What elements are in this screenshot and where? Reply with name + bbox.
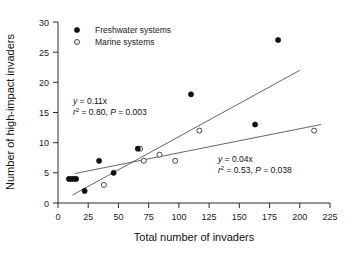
data-point-freshwater bbox=[276, 37, 281, 42]
x-tick-label: 200 bbox=[292, 212, 307, 222]
y-tick-label: 5 bbox=[44, 168, 49, 178]
data-point-marine bbox=[141, 158, 146, 163]
y-tick-label: 15 bbox=[39, 108, 49, 118]
y-tick-label: 25 bbox=[39, 48, 49, 58]
series-marine-systems bbox=[101, 128, 316, 187]
x-axis-title: Total number of invaders bbox=[134, 231, 255, 243]
data-point-freshwater bbox=[111, 170, 116, 175]
data-point-freshwater bbox=[188, 92, 193, 97]
data-point-marine bbox=[197, 128, 202, 133]
y-tick-label: 30 bbox=[39, 18, 49, 28]
scatter-plot-figure: 0 5 10 15 20 25 30 0 25 50 75 100 bbox=[0, 0, 351, 256]
y-axis-title: Number of high-impact invaders bbox=[4, 34, 16, 190]
x-tick-label: 175 bbox=[262, 212, 277, 222]
legend-marker-filled-circle-icon bbox=[74, 27, 79, 32]
legend-label-marine: Marine systems bbox=[95, 37, 155, 47]
svg-text:r2 = 0.53, P = 0.038: r2 = 0.53, P = 0.038 bbox=[218, 165, 292, 175]
svg-text:r2 = 0.80, P = 0.003: r2 = 0.80, P = 0.003 bbox=[73, 107, 147, 117]
freshwater-annotation: y = 0.11x r2 = 0.80, P = 0.003 bbox=[72, 96, 147, 117]
chart-legend: Freshwater systems Marine systems bbox=[74, 25, 171, 47]
data-point-freshwater bbox=[135, 146, 140, 151]
y-axis-ticks: 0 5 10 15 20 25 30 bbox=[39, 18, 58, 209]
legend-label-freshwater: Freshwater systems bbox=[95, 25, 171, 35]
svg-text:y = 0.04x: y = 0.04x bbox=[217, 154, 253, 164]
x-tick-label: 25 bbox=[83, 212, 93, 222]
y-tick-label: 20 bbox=[39, 78, 49, 88]
mar-p-rest: = 0.038 bbox=[261, 165, 292, 175]
data-point-freshwater bbox=[82, 188, 87, 193]
y-tick-label: 10 bbox=[39, 138, 49, 148]
data-point-marine bbox=[101, 182, 106, 187]
freshwater-fit-line bbox=[73, 70, 300, 195]
x-tick-label: 150 bbox=[232, 212, 247, 222]
data-point-freshwater bbox=[74, 176, 79, 181]
fw-p-rest: = 0.003 bbox=[116, 107, 147, 117]
x-tick-label: 50 bbox=[113, 212, 123, 222]
chart-svg: 0 5 10 15 20 25 30 0 25 50 75 100 bbox=[0, 0, 351, 256]
legend-marker-open-circle-icon bbox=[75, 40, 80, 45]
regression-lines bbox=[73, 70, 322, 195]
x-tick-label: 100 bbox=[171, 212, 186, 222]
data-point-marine bbox=[312, 128, 317, 133]
x-axis-ticks: 0 25 50 75 100 125 150 175 200 225 bbox=[55, 203, 337, 222]
mar-eq-rest: = 0.04x bbox=[222, 154, 253, 164]
y-tick-label: 0 bbox=[44, 199, 49, 209]
x-tick-label: 75 bbox=[144, 212, 154, 222]
x-tick-label: 225 bbox=[322, 212, 337, 222]
marine-annotation: y = 0.04x r2 = 0.53, P = 0.038 bbox=[217, 154, 292, 175]
data-point-marine bbox=[157, 152, 162, 157]
fw-r-rest: = 0.80, bbox=[79, 107, 110, 117]
data-point-marine bbox=[173, 158, 178, 163]
mar-r-rest: = 0.53, bbox=[224, 165, 255, 175]
data-point-freshwater bbox=[253, 122, 258, 127]
svg-text:y = 0.11x: y = 0.11x bbox=[72, 96, 108, 106]
data-point-freshwater bbox=[97, 158, 102, 163]
x-tick-label: 0 bbox=[55, 212, 60, 222]
fw-eq-rest: = 0.11x bbox=[77, 96, 108, 106]
x-tick-label: 125 bbox=[202, 212, 217, 222]
